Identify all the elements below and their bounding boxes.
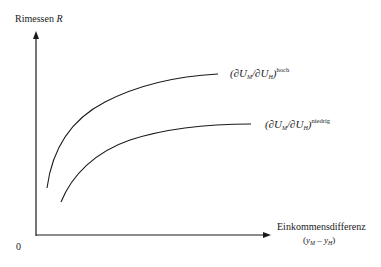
paren-close: ) [332, 235, 335, 245]
curve-niedrig [61, 124, 251, 202]
y-axis-label-text: Rimessen [15, 13, 54, 24]
minus-sign: – [315, 235, 324, 245]
x-axis-sublabel: (yM – yH) [303, 236, 335, 246]
label-u1: U [239, 67, 247, 79]
label-open: (∂ [265, 118, 274, 130]
label-slash: /∂ [287, 118, 296, 130]
label-u2: U [261, 67, 269, 79]
curve-label-niedrig: (∂UM/∂UH)niedrig [265, 118, 330, 131]
label-u2: U [296, 118, 304, 130]
label-slash: /∂ [252, 67, 261, 79]
label-superscript: hoch [277, 66, 290, 73]
y-axis-label: Rimessen R [15, 14, 63, 24]
y-axis-symbol: R [56, 13, 62, 24]
curve-label-hoch: (∂UM/∂UH)hoch [230, 67, 289, 80]
origin-label: 0 [16, 242, 21, 252]
y-axis-arrow-icon [33, 31, 39, 39]
label-u1: U [274, 118, 282, 130]
curve-hoch [47, 74, 218, 188]
x-axis-label: Einkommensdifferenz [277, 222, 366, 232]
x-axis-arrow-icon [263, 232, 271, 238]
label-superscript: niedrig [312, 117, 330, 124]
label-open: (∂ [230, 67, 239, 79]
